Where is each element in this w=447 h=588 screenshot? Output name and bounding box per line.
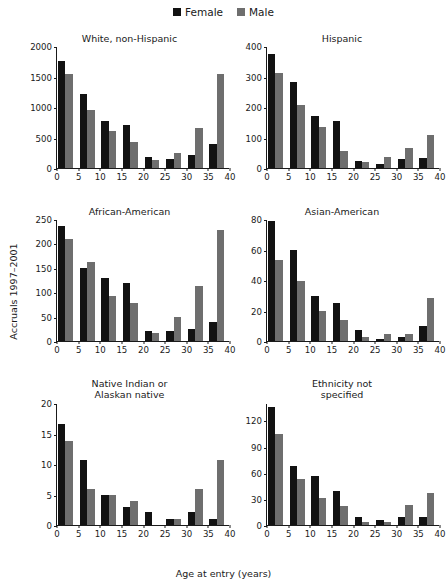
y-tick-mark xyxy=(264,281,267,282)
bar-male xyxy=(319,127,326,168)
x-tick-mark xyxy=(100,525,101,528)
bar-female xyxy=(333,303,340,341)
x-tick-mark xyxy=(208,341,209,344)
x-tick-mark xyxy=(78,168,79,171)
bar-female xyxy=(398,159,405,168)
y-tick-mark xyxy=(54,269,57,270)
bar-female xyxy=(101,278,108,341)
bar-male xyxy=(319,311,326,341)
bar-male xyxy=(195,489,202,525)
x-tick-mark xyxy=(230,341,231,344)
y-tick-mark xyxy=(264,251,267,252)
plot-area: 05001000150020000510152025303540 xyxy=(56,47,229,169)
bar-female xyxy=(333,491,340,525)
bar-female xyxy=(355,517,362,525)
bar-female xyxy=(101,121,108,168)
x-tick-mark xyxy=(310,341,311,344)
plot-area: 051015200510152025303540 xyxy=(56,404,229,526)
legend-swatch-female-icon xyxy=(173,8,181,16)
x-tick-mark xyxy=(267,168,268,171)
y-tick-mark xyxy=(264,108,267,109)
x-tick-mark xyxy=(353,168,354,171)
bar-female xyxy=(188,155,195,168)
bar-male xyxy=(275,73,282,168)
plot-area: 01002003004000510152025303540 xyxy=(266,47,439,169)
bar-male xyxy=(405,148,412,168)
x-tick-mark xyxy=(396,525,397,528)
plot-area: 0501001502002500510152025303540 xyxy=(56,220,229,342)
x-tick-mark xyxy=(375,525,376,528)
bar-female xyxy=(290,466,297,525)
bar-female xyxy=(58,61,65,168)
bar-male xyxy=(174,317,181,341)
bar-male xyxy=(152,160,159,168)
bar-male xyxy=(130,501,137,525)
bar-male xyxy=(405,334,412,341)
legend-item-male: Male xyxy=(237,6,274,18)
bar-female xyxy=(209,144,216,168)
bar-female xyxy=(376,520,383,525)
x-tick-mark xyxy=(186,525,187,528)
x-tick-mark xyxy=(186,168,187,171)
bar-male xyxy=(340,320,347,341)
bar-male xyxy=(297,281,304,341)
bar-male xyxy=(87,262,94,341)
bar-male xyxy=(405,505,412,525)
x-tick-mark xyxy=(143,525,144,528)
bar-male xyxy=(174,519,181,525)
bar-female xyxy=(311,476,318,525)
panel-white-non-hispanic: White, non-Hispanic050010001500200005101… xyxy=(18,33,241,191)
bar-male xyxy=(217,460,224,525)
x-tick-mark xyxy=(288,525,289,528)
bar-male xyxy=(109,296,116,341)
bar-male xyxy=(340,506,347,525)
x-tick-mark xyxy=(121,341,122,344)
bar-female xyxy=(80,268,87,341)
x-tick-mark xyxy=(267,341,268,344)
legend-label-female: Female xyxy=(185,6,223,18)
bar-male xyxy=(152,333,159,341)
panel-ethnicity-not-specified: Ethnicity not specified03060901200510152… xyxy=(233,378,447,548)
bar-male xyxy=(65,239,72,341)
bar-female xyxy=(166,519,173,525)
x-tick-mark xyxy=(165,341,166,344)
x-tick-mark xyxy=(57,341,58,344)
x-tick-mark xyxy=(396,168,397,171)
bar-male xyxy=(384,522,391,525)
x-tick-mark xyxy=(375,168,376,171)
y-tick-mark xyxy=(264,448,267,449)
x-tick-mark xyxy=(353,341,354,344)
bar-female xyxy=(188,512,195,525)
y-tick-mark xyxy=(264,500,267,501)
bar-female xyxy=(123,507,130,525)
bar-male xyxy=(65,74,72,168)
panel-title: Native Indian or Alaskan native xyxy=(18,378,241,400)
x-tick-mark xyxy=(353,525,354,528)
y-tick-mark xyxy=(264,474,267,475)
x-tick-mark xyxy=(331,341,332,344)
bar-female xyxy=(419,326,426,341)
bar-female xyxy=(145,512,152,525)
bar-female xyxy=(58,226,65,341)
x-tick-mark xyxy=(143,168,144,171)
bar-female xyxy=(166,159,173,168)
y-tick-mark xyxy=(54,496,57,497)
x-tick-mark xyxy=(165,168,166,171)
bar-male xyxy=(427,298,434,341)
y-tick-mark xyxy=(54,465,57,466)
legend-item-female: Female xyxy=(173,6,223,18)
y-tick-mark xyxy=(264,421,267,422)
bar-female xyxy=(311,296,318,341)
bar-male xyxy=(384,334,391,341)
bar-male xyxy=(427,493,434,525)
bar-female xyxy=(268,221,275,341)
x-tick-mark xyxy=(331,525,332,528)
x-tick-mark xyxy=(440,341,441,344)
y-tick-mark xyxy=(264,220,267,221)
bar-male xyxy=(109,131,116,169)
x-tick-mark xyxy=(440,525,441,528)
y-tick-mark xyxy=(54,139,57,140)
legend: Female Male xyxy=(0,6,447,18)
x-tick-mark xyxy=(288,168,289,171)
bar-female xyxy=(398,517,405,525)
